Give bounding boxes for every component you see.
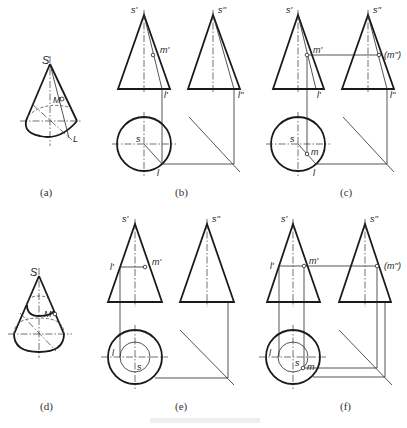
caption-d: (d) xyxy=(40,400,53,413)
panel-f-projection: s' m' l' s'' (m'') s m l (f) xyxy=(259,214,401,413)
label-l: l xyxy=(157,168,160,178)
label-l-prime: l' xyxy=(317,90,321,100)
label-l-double-prime: l'' xyxy=(390,90,396,100)
label-M: M xyxy=(53,95,61,105)
label-S: S xyxy=(30,266,38,278)
label-m-prime: m' xyxy=(313,45,322,55)
panel-d-pictorial-cone: S M (d) xyxy=(8,266,72,413)
caption-a: (a) xyxy=(40,186,53,199)
label-m-prime: m' xyxy=(160,45,169,55)
label-s-double-prime: s'' xyxy=(370,214,378,224)
label-s: s xyxy=(295,358,300,368)
label-l-prime: l' xyxy=(110,262,114,272)
label-S: S xyxy=(42,54,50,66)
label-m-double-prime: (m'') xyxy=(384,50,401,60)
label-s-double-prime: s'' xyxy=(373,5,381,15)
caption-c: (c) xyxy=(340,186,353,199)
label-s: s xyxy=(136,134,141,144)
label-m-double-prime: (m'') xyxy=(384,261,401,271)
label-m-prime: m' xyxy=(309,256,318,266)
label-m-prime: m' xyxy=(152,257,161,267)
label-s-prime: s' xyxy=(281,214,288,224)
label-s-double-prime: s'' xyxy=(218,5,226,15)
label-s-prime: s' xyxy=(122,214,129,224)
label-l: l xyxy=(269,348,272,358)
caption-e: (e) xyxy=(175,400,188,413)
label-l: l xyxy=(112,348,115,358)
label-s: s xyxy=(137,362,142,372)
label-L: L xyxy=(73,134,78,144)
caption-f: (f) xyxy=(340,400,351,413)
label-l: l xyxy=(313,168,316,178)
panel-c-projection: s' m' l' s'' (m'') l'' s m l (c) xyxy=(266,5,401,199)
cone-projection-diagram: S M L (a) s' m' l' s'' l'' s l (b) xyxy=(0,0,407,428)
label-m: m xyxy=(307,362,315,372)
panel-e-projection: s' m' l' s'' s l (e) xyxy=(101,214,234,413)
label-s: s xyxy=(290,134,295,144)
figure-caption-faint xyxy=(150,418,260,423)
panel-a-pictorial-cone: S M L (a) xyxy=(20,54,82,199)
label-s-double-prime: s'' xyxy=(212,214,220,224)
caption-b: (b) xyxy=(175,186,188,199)
panel-b-projection: s' m' l' s'' l'' s l (b) xyxy=(112,5,244,199)
label-l-prime: l' xyxy=(164,90,168,100)
label-M: M xyxy=(44,309,52,319)
label-s-prime: s' xyxy=(286,5,293,15)
label-s-prime: s' xyxy=(131,5,138,15)
label-l-double-prime: l'' xyxy=(238,90,244,100)
label-m: m xyxy=(311,147,319,157)
label-l-prime: l' xyxy=(270,261,274,271)
